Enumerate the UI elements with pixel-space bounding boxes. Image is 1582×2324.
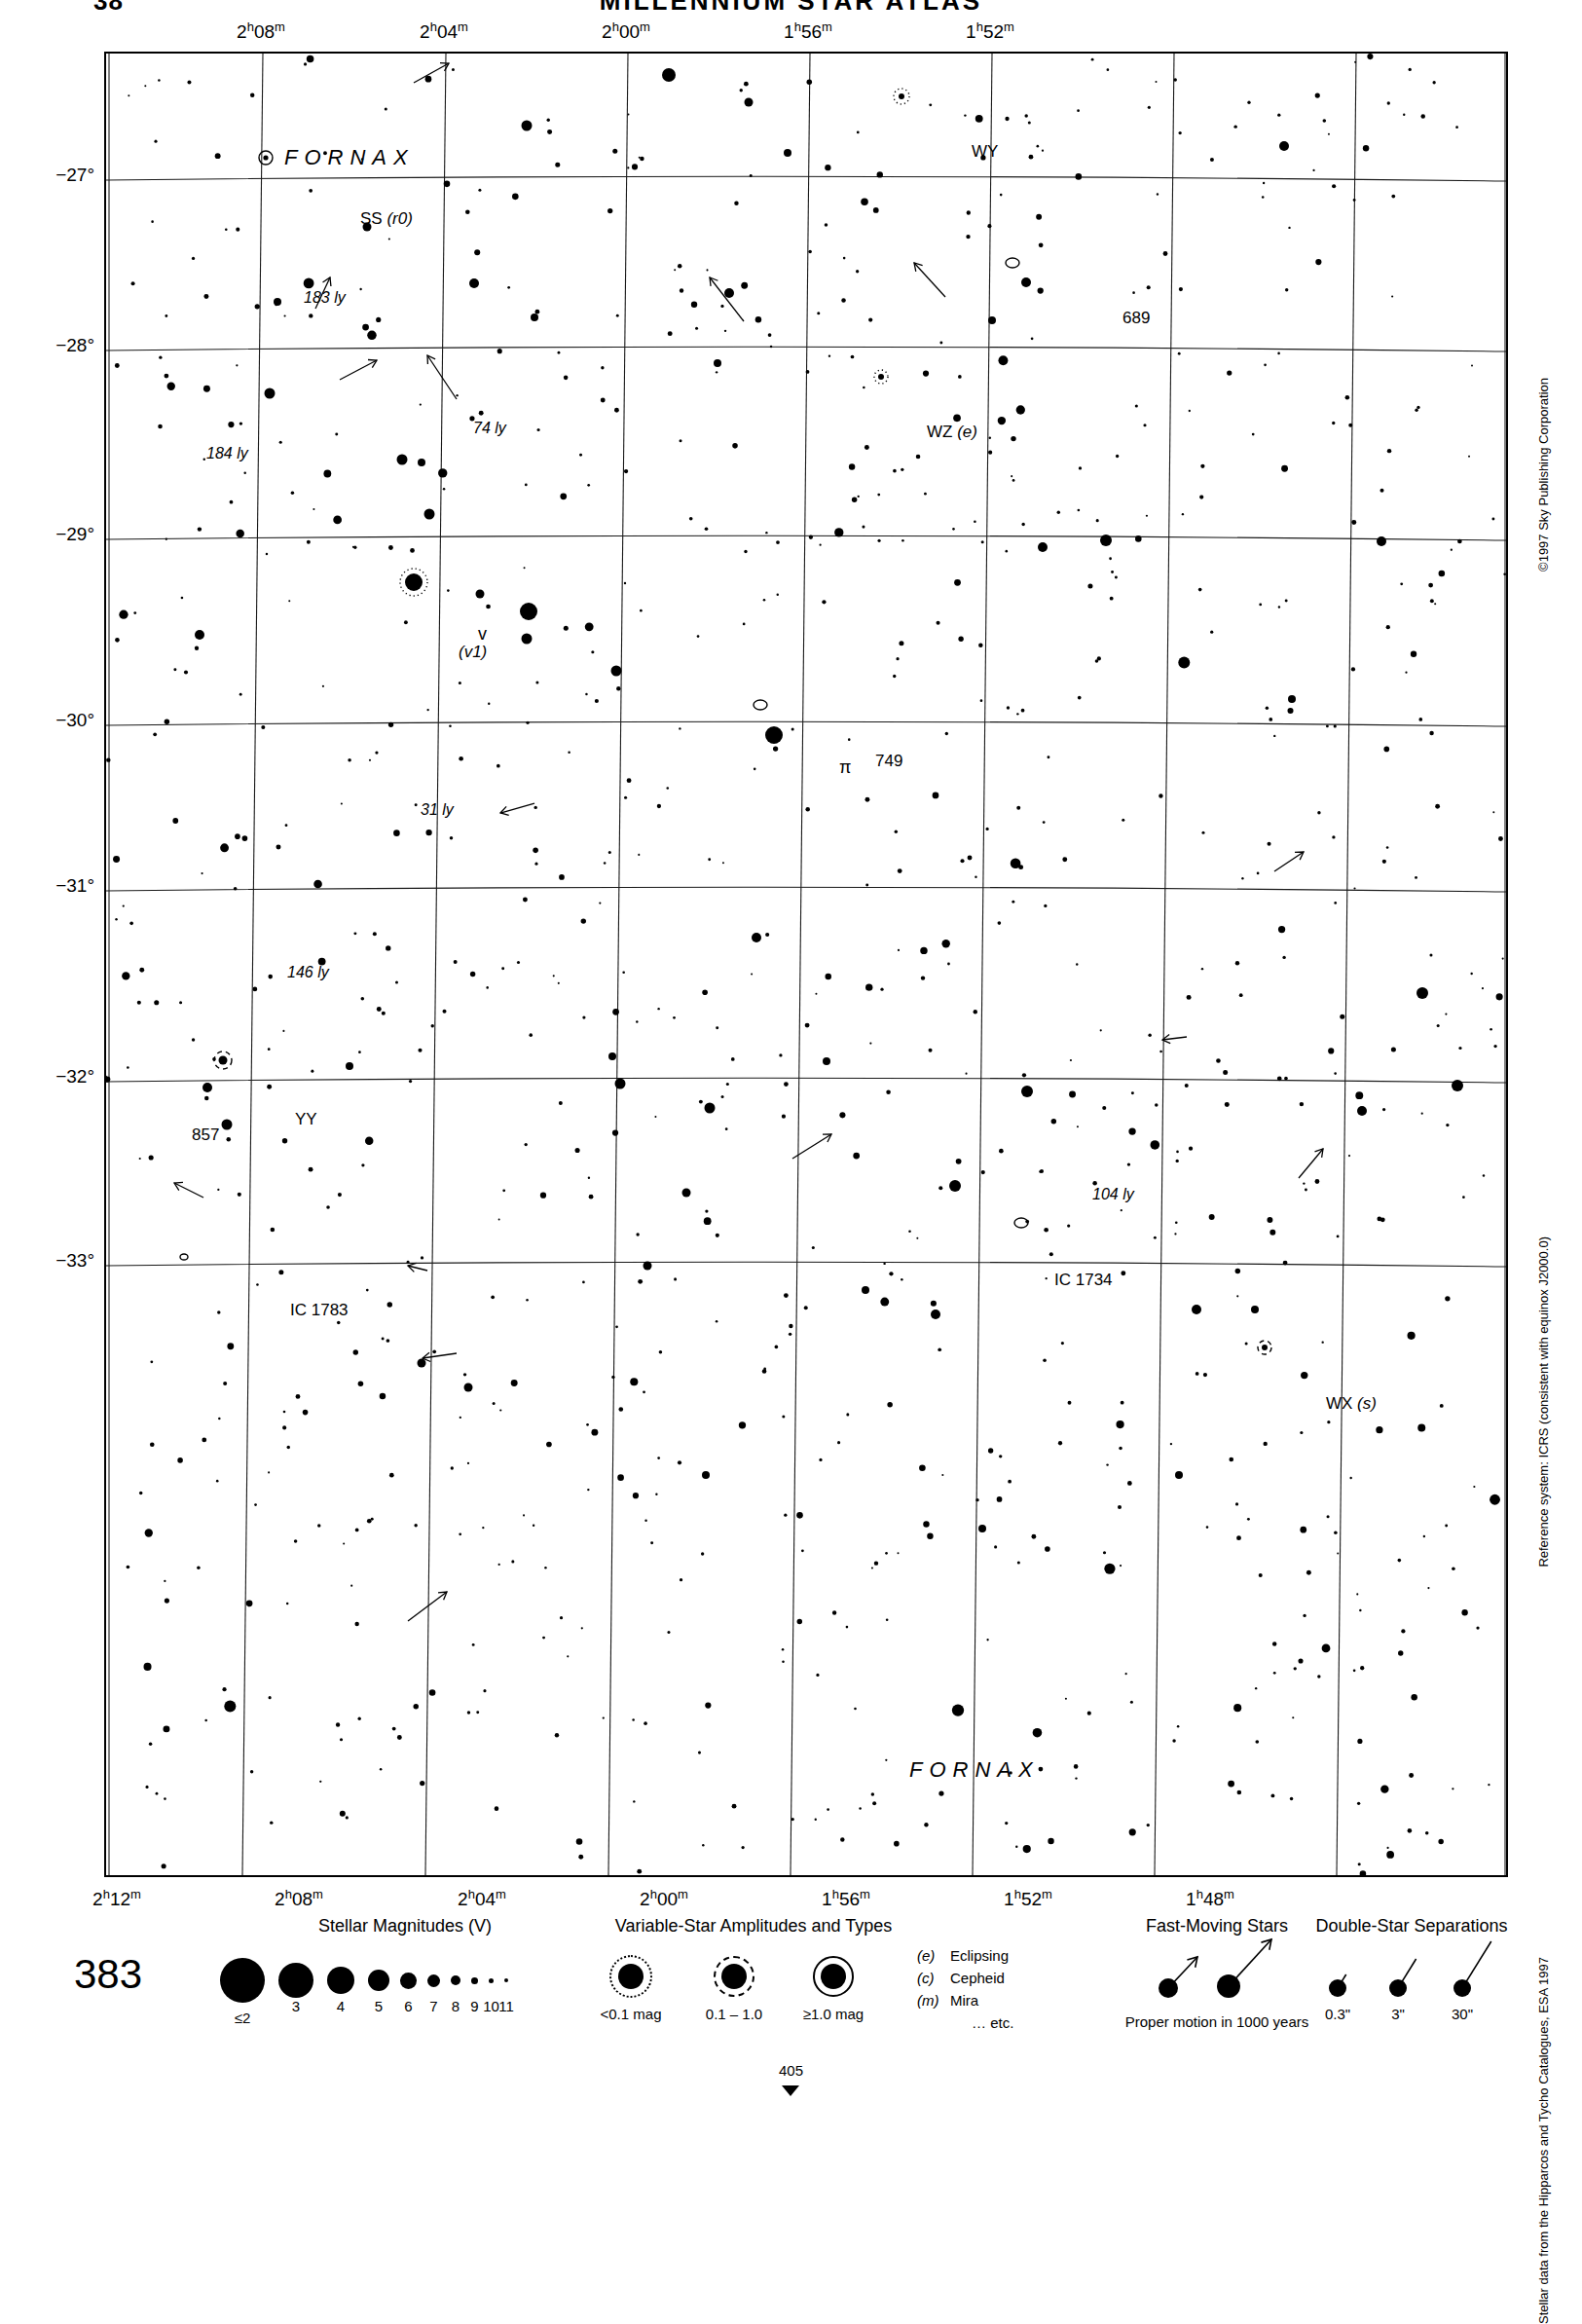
object-label-distance: 184 ly	[206, 446, 248, 462]
legend-magnitude-dot-7	[427, 1974, 440, 1987]
legend-double-star-separations: Double-Star Separations 0.3"3"30"	[1266, 1916, 1558, 2062]
ra-tick-top-0: 2h08m	[237, 19, 285, 43]
legend-variable-type-name: Eclipsing	[950, 1947, 1009, 1964]
object-label-deep-sky: IC 1734	[1054, 1272, 1113, 1289]
legend-magnitude-label: 6	[404, 1998, 412, 2014]
object-label-deep-sky: 857	[192, 1126, 219, 1144]
legend-magnitude-dot-≤2	[220, 1958, 265, 2003]
object-label-variable-star: WY	[972, 143, 998, 161]
legend-variable-type-name: Mira	[950, 1992, 978, 2009]
ra-tick-bottom-0: 2h12m	[92, 1887, 141, 1910]
dec-tick-1: −28°	[0, 335, 94, 356]
dec-tick-4: −31°	[0, 875, 94, 897]
legend-variable-core-2	[821, 1964, 846, 1989]
ra-tick-top-3: 1h56m	[784, 19, 832, 43]
legend-variable-amplitude-label: 0.1 – 1.0	[681, 2006, 788, 2022]
data-source-note-wrap: Stellar data from the Hipparcos and Tych…	[1536, 1519, 1556, 1957]
legend-variable-type-code: (c)	[917, 1970, 950, 1986]
dec-tick-2: −29°	[0, 524, 94, 545]
atlas-title: MILLENNIUM STAR ATLAS	[0, 0, 1582, 12]
legend-magnitude-label: 3	[292, 1998, 300, 2014]
copyright-note: ©1997 Sky Publishing Corporation	[1536, 378, 1551, 572]
object-label-variable-star: YY	[295, 1111, 317, 1128]
star-chart[interactable]: FORNAXFORNAXSS (r0)WY689WZ (e)183 ly184 …	[104, 52, 1508, 1877]
constellation-label: FORNAX	[909, 1758, 1040, 1781]
legend-variable-type-name: … etc.	[972, 2014, 1013, 2031]
object-label-variable-star: WX (s)	[1326, 1395, 1377, 1413]
legend-variable-type-row: … etc.	[938, 2014, 1013, 2031]
legend-magnitude-dot-10	[489, 1978, 494, 1983]
ra-tick-bottom-2: 2h04m	[458, 1887, 506, 1910]
dec-axis: −27°−28°−29°−30°−31°−32°−33°	[0, 52, 104, 1877]
legend-magnitude-dot-5	[368, 1970, 389, 1991]
chart-sequence-number: 405	[0, 2062, 1582, 2079]
legend-variable-amplitude-label: ≥1.0 mag	[780, 2006, 887, 2022]
page-header: 38 MILLENNIUM STAR ATLAS	[0, 0, 1582, 12]
legend-variable-type-row: (m)Mira	[917, 1992, 978, 2009]
legend-magnitude-dot-4	[327, 1967, 354, 1994]
object-label-distance: 183 ly	[304, 290, 346, 307]
dec-tick-0: −27°	[0, 165, 94, 186]
reference-system-note-wrap: Reference system: ICRS (consistent with …	[1536, 818, 1556, 1236]
object-label-variable-star: WZ (e)	[927, 424, 977, 441]
legend-magnitude-dot-9	[471, 1977, 478, 1984]
reference-system-note: Reference system: ICRS (consistent with …	[1536, 1236, 1551, 1568]
legend: 383 Stellar Magnitudes (V) ≤234567891011…	[0, 1916, 1582, 2101]
legend-magnitude-label: 9	[470, 1998, 478, 2014]
object-label-deep-sky: 749	[875, 753, 902, 770]
legend-magnitude-dot-6	[400, 1973, 417, 1989]
legend-magnitude-dot-3	[278, 1963, 313, 1998]
dec-tick-6: −33°	[0, 1250, 94, 1272]
legend-magnitude-dot-8	[451, 1975, 460, 1985]
object-label-distance: 104 ly	[1092, 1187, 1134, 1203]
legend-magnitude-label: 8	[452, 1998, 460, 2014]
legend-magnitude-label: 10	[483, 1998, 499, 2014]
ra-axis-top: 2h08m2h04m2h00m1h56m1h52m	[0, 19, 1582, 45]
legend-magnitude-label: 5	[375, 1998, 383, 2014]
object-label-distance: 146 ly	[287, 965, 329, 981]
legend-magnitudes-title: Stellar Magnitudes (V)	[220, 1916, 590, 1937]
object-label-distance: 74 ly	[473, 421, 506, 437]
legend-magnitude-label: ≤2	[235, 2010, 251, 2026]
legend-variable-core-0	[618, 1964, 644, 1989]
object-label-deep-sky: IC 1783	[290, 1302, 349, 1319]
object-label-distance: 31 ly	[421, 802, 454, 819]
legend-variable-type-name: Cepheid	[950, 1970, 1005, 1986]
legend-variable-type-row: (e)Eclipsing	[917, 1947, 1009, 1964]
ra-tick-bottom-1: 2h08m	[275, 1887, 323, 1910]
dec-tick-3: −30°	[0, 710, 94, 731]
legend-variables-title: Variable-Star Amplitudes and Types	[588, 1916, 919, 1937]
legend-variable-type-row: (c)Cepheid	[917, 1970, 1005, 1986]
ra-tick-top-4: 1h52m	[966, 19, 1014, 43]
object-label-variable-star: SS (r0)	[360, 210, 413, 228]
ra-axis-bottom: 2h12m2h08m2h04m2h00m1h56m1h52m1h48m	[0, 1887, 1582, 1912]
dec-tick-5: −32°	[0, 1066, 94, 1088]
legend-variable-core-1	[721, 1964, 747, 1989]
chart-plot-area: FORNAXFORNAXSS (r0)WY689WZ (e)183 ly184 …	[106, 54, 1506, 1875]
legend-variable-type-code: (m)	[917, 1992, 950, 2009]
object-label-deep-sky: 689	[1122, 310, 1150, 327]
legend-magnitude-label: 7	[429, 1998, 437, 2014]
legend-magnitude-label: 4	[337, 1998, 345, 2014]
ra-tick-top-2: 2h00m	[602, 19, 650, 43]
ra-tick-bottom-4: 1h56m	[822, 1887, 870, 1910]
ra-tick-bottom-5: 1h52m	[1004, 1887, 1052, 1910]
object-label-variable-star: (v1)	[459, 644, 487, 661]
ra-tick-bottom-3: 2h00m	[640, 1887, 688, 1910]
legend-variable-type-code: (e)	[917, 1947, 950, 1964]
ra-tick-bottom-6: 1h48m	[1186, 1887, 1234, 1910]
page-number: 383	[74, 1951, 142, 1998]
legend-double-star-diagram	[1266, 1916, 1558, 2013]
legend-variable-stars: Variable-Star Amplitudes and Types <0.1 …	[588, 1916, 919, 2062]
legend-magnitude-label: 11	[498, 1998, 514, 2014]
chart-sequence-arrow-icon	[782, 2085, 799, 2096]
legend-variable-amplitude-label: <0.1 mag	[577, 2006, 684, 2022]
copyright-note-wrap: ©1997 Sky Publishing Corporation	[1536, 56, 1556, 378]
legend-stellar-magnitudes: Stellar Magnitudes (V) ≤234567891011	[220, 1916, 590, 2062]
constellation-label: FORNAX	[284, 146, 415, 168]
object-label-bayer: v	[478, 625, 487, 644]
ra-tick-top-1: 2h04m	[420, 19, 468, 43]
legend-magnitude-dot-11	[504, 1978, 508, 1982]
legend-variable-types: (e)Eclipsing(c)Cepheid(m)Mira… etc.	[917, 1947, 1092, 2054]
object-label-bayer: π	[839, 758, 851, 777]
